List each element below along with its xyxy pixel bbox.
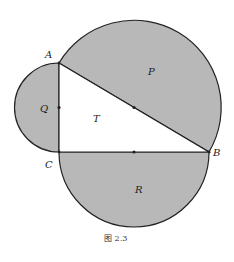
- vertex-b-dot: [208, 151, 211, 154]
- vertex-c-dot: [58, 151, 61, 154]
- figure-diagram: A B C P Q T R 图 2.3: [0, 0, 234, 262]
- vertex-a-dot: [58, 62, 61, 65]
- label-b: B: [212, 147, 220, 158]
- figure-caption: 图 2.3: [104, 234, 127, 243]
- label-p: P: [147, 66, 155, 77]
- region-q-semicircle: [15, 63, 60, 152]
- midpoint-ac: [57, 106, 60, 109]
- label-c: C: [45, 159, 53, 170]
- midpoint-cb: [132, 150, 135, 153]
- midpoint-ab: [132, 106, 135, 109]
- region-r-semicircle: [59, 152, 209, 227]
- label-r: R: [134, 184, 143, 195]
- label-q: Q: [40, 103, 48, 114]
- label-a: A: [44, 49, 52, 60]
